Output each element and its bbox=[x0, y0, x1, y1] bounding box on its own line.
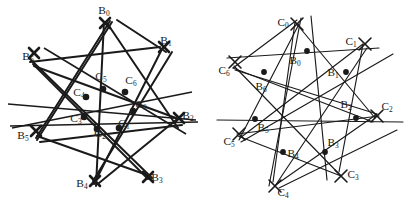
right-configuration-drawing: C0 C1 C2 C3 C4 C5 C6 B0 B1 B2 B3 B4 B5 B… bbox=[207, 0, 413, 209]
label-b5: B5 bbox=[257, 121, 268, 135]
config-line bbox=[227, 48, 379, 58]
vertex-dot bbox=[322, 149, 328, 155]
label-c4: C4 bbox=[73, 86, 85, 100]
config-line bbox=[94, 51, 161, 184]
label-b6: B6 bbox=[255, 80, 266, 94]
label-b0: B0 bbox=[98, 4, 110, 18]
label-c0: C0 bbox=[277, 16, 288, 30]
label-b2: B2 bbox=[182, 109, 194, 123]
label-b4: B4 bbox=[76, 177, 88, 191]
label-c1: C1 bbox=[345, 35, 356, 49]
label-c6: C6 bbox=[218, 64, 229, 78]
right-lines bbox=[217, 16, 403, 188]
vertex-dot bbox=[81, 114, 88, 121]
figure-pair: B0 B1 B2 B3 B4 B5 B6 C0 C1 C2 C3 C4 C5 C… bbox=[0, 0, 413, 209]
vertex-dot bbox=[280, 149, 286, 155]
figure-panel-right: C0 C1 C2 C3 C4 C5 C6 B0 B1 B2 B3 B4 B5 B… bbox=[207, 0, 413, 209]
label-c4: C4 bbox=[277, 186, 288, 200]
left-lines bbox=[30, 20, 182, 186]
label-c3: C3 bbox=[347, 168, 358, 182]
vertex-dot bbox=[100, 86, 107, 93]
label-b5: B5 bbox=[17, 129, 29, 143]
vertex-dot bbox=[353, 115, 359, 121]
vertex-dot bbox=[261, 69, 267, 75]
config-line bbox=[217, 120, 403, 122]
label-b3: B3 bbox=[327, 136, 338, 150]
vertex-marker bbox=[359, 38, 371, 50]
vertex-dot bbox=[304, 48, 310, 54]
config-line bbox=[233, 68, 373, 122]
left-configuration-drawing: B0 B1 B2 B3 B4 B5 B6 C0 C1 C2 C3 C4 C5 C… bbox=[0, 0, 207, 209]
vertex-dot bbox=[343, 69, 349, 75]
label-c2: C2 bbox=[381, 100, 392, 114]
label-c6: C6 bbox=[125, 74, 137, 88]
vertex-dot bbox=[122, 89, 129, 96]
label-b1: B1 bbox=[327, 66, 338, 80]
vertex-marker bbox=[233, 128, 245, 140]
vertex-marker bbox=[335, 170, 347, 182]
label-c2: C2 bbox=[94, 127, 106, 141]
figure-panel-left: B0 B1 B2 B3 B4 B5 B6 C0 C1 C2 C3 C4 C5 C… bbox=[0, 0, 207, 209]
label-b0: B0 bbox=[289, 54, 300, 68]
label-c5: C5 bbox=[223, 135, 234, 149]
